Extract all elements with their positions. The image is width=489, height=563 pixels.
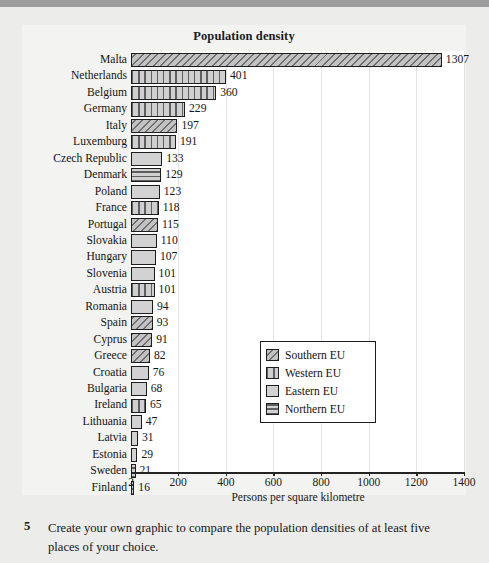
category-label: Denmark — [22, 167, 127, 183]
bar-value-label: 133 — [166, 151, 183, 167]
bar — [131, 349, 150, 363]
bar-row: Latvia31 — [22, 430, 466, 446]
bar — [131, 218, 158, 232]
bar-value-label: 1307 — [446, 52, 469, 68]
bar-row: Slovenia101 — [22, 266, 466, 282]
legend-item: Southern EU — [266, 346, 370, 364]
bar-row: Poland123 — [22, 184, 466, 200]
bar-value-label: 360 — [220, 85, 237, 101]
category-label: Portugal — [22, 217, 127, 233]
bar-value-label: 31 — [142, 430, 154, 446]
page-top-edge — [0, 0, 489, 7]
bar — [131, 283, 155, 297]
bar — [131, 185, 160, 199]
x-axis-line — [131, 472, 465, 474]
bar — [131, 415, 142, 429]
bar-row: Greece82 — [22, 348, 466, 364]
bar-row: Portugal115 — [22, 217, 466, 233]
legend-item: Northern EU — [266, 400, 370, 418]
bar — [131, 119, 177, 133]
bar-value-label: 129 — [165, 167, 182, 183]
category-label: Latvia — [22, 430, 127, 446]
bar-row: Croatia76 — [22, 365, 466, 381]
category-label: Estonia — [22, 447, 127, 463]
bar-row: Ireland65 — [22, 397, 466, 413]
bar — [131, 333, 152, 347]
legend-item: Western EU — [266, 364, 370, 382]
bar-value-label: 107 — [160, 249, 177, 265]
bar-value-label: 76 — [153, 365, 165, 381]
x-tick-label: 1400 — [434, 476, 489, 488]
category-label: Germany — [22, 101, 127, 117]
bar-row: Slovakia110 — [22, 233, 466, 249]
bar — [131, 86, 216, 100]
legend-label: Western EU — [285, 367, 341, 380]
exercise-text: Create your own graphic to compare the p… — [48, 519, 458, 557]
category-label: Bulgaria — [22, 381, 127, 397]
exercise-number: 5 — [24, 519, 30, 534]
x-axis-label: Persons per square kilometre — [131, 491, 465, 503]
category-label: Greece — [22, 348, 127, 364]
bar-row: Italy197 — [22, 118, 466, 134]
legend: Southern EUWestern EUEastern EUNorthern … — [260, 341, 376, 423]
bar — [131, 70, 226, 84]
bar-row: Germany229 — [22, 101, 466, 117]
bar-value-label: 229 — [189, 101, 206, 117]
category-label: Slovenia — [22, 266, 127, 282]
bar-value-label: 101 — [159, 266, 176, 282]
bar-row: France118 — [22, 200, 466, 216]
bar — [131, 448, 137, 462]
bar — [131, 168, 161, 182]
category-label: Lithuania — [22, 414, 127, 430]
bar-value-label: 118 — [163, 200, 180, 216]
category-label: Cyprus — [22, 332, 127, 348]
category-label: France — [22, 200, 127, 216]
bar — [131, 382, 147, 396]
category-label: Malta — [22, 52, 127, 68]
bar-value-label: 47 — [146, 414, 158, 430]
legend-swatch-icon — [266, 349, 279, 361]
bar — [131, 234, 157, 248]
bar-row: Luxemburg191 — [22, 134, 466, 150]
bar-value-label: 101 — [159, 282, 176, 298]
bar — [131, 152, 162, 166]
bar — [131, 250, 156, 264]
bar — [131, 431, 138, 445]
category-label: Slovakia — [22, 233, 127, 249]
category-label: Netherlands — [22, 68, 127, 84]
bar-value-label: 115 — [162, 217, 179, 233]
population-density-figure: Population density Malta1307Netherlands4… — [22, 25, 466, 495]
category-label: Austria — [22, 282, 127, 298]
category-label: Croatia — [22, 365, 127, 381]
bar — [131, 316, 153, 330]
bar — [131, 135, 176, 149]
legend-label: Northern EU — [285, 403, 345, 416]
textbook-page: Population density Malta1307Netherlands4… — [0, 7, 489, 563]
bar-row: Malta1307 — [22, 52, 466, 68]
legend-label: Southern EU — [285, 349, 345, 362]
bar-value-label: 82 — [154, 348, 166, 364]
bar-row: Estonia29 — [22, 447, 466, 463]
bar-value-label: 68 — [151, 381, 163, 397]
bar-value-label: 123 — [164, 184, 181, 200]
bar — [131, 399, 146, 413]
category-label: Italy — [22, 118, 127, 134]
category-label: Czech Republic — [22, 151, 127, 167]
chart-title: Population density — [22, 29, 466, 44]
bar-row: Czech Republic133 — [22, 151, 466, 167]
bar-row: Netherlands401 — [22, 68, 466, 84]
legend-swatch-icon — [266, 367, 279, 379]
bar-value-label: 91 — [156, 332, 168, 348]
legend-swatch-icon — [266, 385, 279, 397]
bar-value-label: 29 — [141, 447, 153, 463]
bar-row: Cyprus91 — [22, 332, 466, 348]
bar-row: Belgium360 — [22, 85, 466, 101]
bar — [131, 267, 155, 281]
category-label: Poland — [22, 184, 127, 200]
category-label: Luxemburg — [22, 134, 127, 150]
bar-row: Austria101 — [22, 282, 466, 298]
bar-value-label: 197 — [181, 118, 198, 134]
bar-row: Romania94 — [22, 299, 466, 315]
bar — [131, 102, 185, 116]
bar-value-label: 93 — [157, 315, 169, 331]
